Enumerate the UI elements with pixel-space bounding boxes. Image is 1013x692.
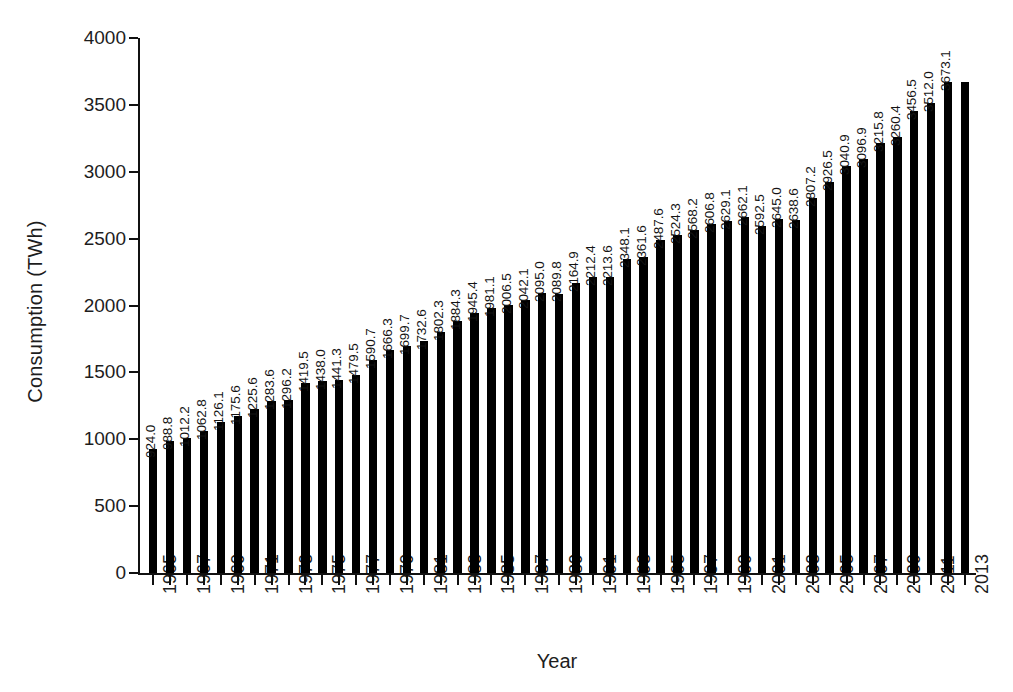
y-tick-label: 500 [56,495,126,517]
y-tick-mark [129,37,138,39]
x-tick-mark [558,575,560,585]
bar-value-label: 2213.6 [600,245,615,286]
x-tick-mark [812,575,814,585]
y-tick-mark [129,104,138,106]
bar [961,82,969,573]
bar [149,449,157,573]
bar [267,401,275,573]
bar [809,198,817,573]
x-tick-mark [660,575,662,585]
bar-value-label: 2568.2 [685,198,700,239]
x-tick-mark [676,575,678,585]
bar [183,438,191,573]
x-tick-mark [406,575,408,585]
bar [166,441,174,573]
bar-value-label: 1479.5 [346,343,361,384]
bar [335,380,343,573]
bar-value-label: 2095.0 [532,261,547,302]
x-tick-mark [575,575,577,585]
bar-value-label: 2089.8 [549,262,564,303]
bar [250,409,258,573]
bar [775,219,783,573]
bar-value-label: 2524.3 [668,204,683,245]
x-tick-mark [440,575,442,585]
bar-value-label: 3673.1 [938,50,953,91]
bar-value-label: 3215.8 [871,111,886,152]
bar-value-label: 1225.6 [245,377,260,418]
y-tick-label: 2500 [56,228,126,250]
bar [673,235,681,573]
x-tick-mark [490,575,492,585]
x-axis-label: Year [138,650,976,673]
bar-value-label: 1283.6 [262,370,277,411]
bar-value-label: 3040.9 [837,135,852,176]
y-tick-mark [129,238,138,240]
bar [369,360,377,573]
x-tick-mark [169,575,171,585]
x-tick-mark [237,575,239,585]
bar [707,224,715,573]
y-tick-label: 1000 [56,428,126,450]
bar [758,226,766,573]
bar [842,166,850,573]
bar [521,300,529,573]
bar-value-label: 3260.4 [888,105,903,146]
bar-value-label: 1884.3 [448,289,463,330]
bar [487,308,495,573]
bar [944,82,952,573]
bar-value-label: 1699.7 [397,314,412,355]
x-tick-mark [423,575,425,585]
bar [386,350,394,573]
x-tick-mark [947,575,949,585]
bar-value-label: 2662.1 [735,185,750,226]
bar [690,230,698,573]
x-tick-mark [203,575,205,585]
bar-value-label: 2592.5 [752,195,767,236]
bar [792,220,800,573]
bar [538,293,546,573]
bar-value-label: 1012.2 [177,406,192,447]
x-tick-mark [964,575,966,585]
bar-value-label: 2348.1 [617,227,632,268]
bar [200,431,208,573]
x-tick-mark [744,575,746,585]
x-tick-mark [879,575,881,585]
bar [606,277,614,573]
bar-value-label: 2361.6 [634,225,649,266]
bar-value-label: 2606.8 [702,193,717,234]
x-tick-mark [778,575,780,585]
bar [656,240,664,573]
bar [910,111,918,573]
x-tick-mark [930,575,932,585]
y-tick-label: 3000 [56,161,126,183]
x-tick-mark [338,575,340,585]
y-tick-mark [129,371,138,373]
x-tick-mark [913,575,915,585]
bar [741,217,749,573]
bar [470,313,478,573]
bar-value-label: 1062.8 [194,399,209,440]
y-tick-label: 1500 [56,361,126,383]
y-tick-mark [129,572,138,574]
bar-value-label: 2926.5 [820,150,835,191]
bar-chart: Consumption (TWh) Year 05001000150020002… [0,0,1013,692]
bar-value-label: 3456.5 [904,79,919,120]
bar [639,257,647,573]
x-tick-mark [457,575,459,585]
x-tick-mark [507,575,509,585]
plot-area: 05001000150020002500300035004000 1965196… [138,38,976,575]
x-tick-mark [304,575,306,585]
bar [623,259,631,573]
x-tick-mark [727,575,729,585]
bar-value-label: 924.0 [143,425,158,458]
x-tick-mark [321,575,323,585]
y-tick-mark [129,305,138,307]
bar-value-label: 1296.2 [279,368,294,409]
bar-value-label: 2487.6 [651,209,666,250]
bar [555,294,563,574]
bar-value-label: 988.8 [160,416,175,449]
y-tick-label: 4000 [56,27,126,49]
y-tick-mark [129,505,138,507]
bar-value-label: 1175.6 [228,385,243,425]
x-tick-mark [372,575,374,585]
